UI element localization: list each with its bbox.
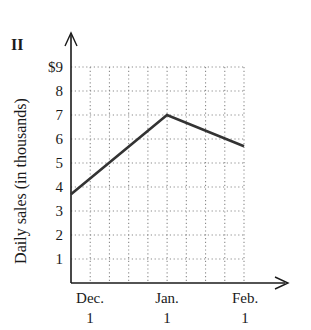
sales-line <box>71 115 244 194</box>
x-tick-label-day: 1 <box>241 310 249 326</box>
x-tick-label-day: 1 <box>163 310 171 326</box>
y-tick-label: 2 <box>56 227 64 243</box>
y-tick-label: $9 <box>48 59 63 75</box>
line-chart: II Daily sales (in thousands) 12345678$9… <box>0 0 311 330</box>
y-tick-label: 3 <box>56 203 64 219</box>
x-tick-label-month: Jan. <box>155 290 179 306</box>
y-tick-label: 4 <box>56 179 64 195</box>
y-tick-label: 5 <box>56 155 64 171</box>
x-tick-label-month: Dec. <box>76 290 104 306</box>
x-tick-label-month: Feb. <box>232 290 258 306</box>
axes <box>65 33 288 289</box>
y-tick-label: 8 <box>56 83 64 99</box>
y-axis-title: Daily sales (in thousands) <box>12 98 30 264</box>
gridlines <box>71 67 244 283</box>
y-tick-label: 7 <box>56 107 64 123</box>
x-tick-label-day: 1 <box>86 310 94 326</box>
y-tick-label: 1 <box>56 251 64 267</box>
y-tick-labels: 12345678$9 <box>48 59 64 267</box>
panel-label: II <box>11 36 23 53</box>
y-tick-label: 6 <box>56 131 64 147</box>
x-tick-labels: Dec.1Jan.1Feb.1 <box>76 290 258 326</box>
chart: II Daily sales (in thousands) 12345678$9… <box>0 0 311 330</box>
